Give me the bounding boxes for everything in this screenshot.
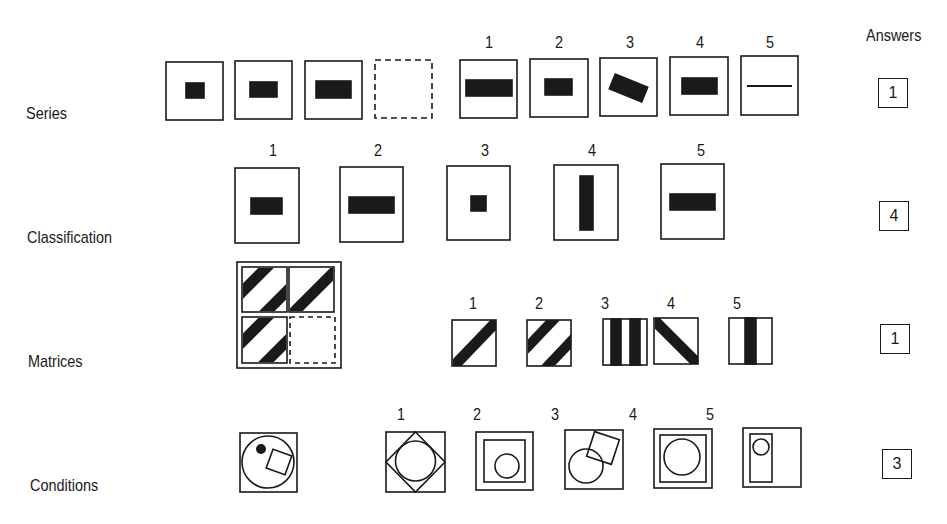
matrices-stem xyxy=(232,262,341,370)
conditions-stem xyxy=(240,433,297,492)
conditions-options xyxy=(386,428,801,492)
matrices-options xyxy=(450,317,772,372)
classification-options xyxy=(235,164,724,243)
series-options xyxy=(460,56,798,118)
figure-canvas xyxy=(0,0,947,524)
series-stem xyxy=(166,60,432,120)
